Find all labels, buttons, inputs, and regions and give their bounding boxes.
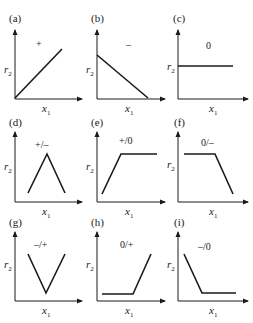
y-axis-label: r2 — [167, 258, 175, 273]
y-axis-label: r2 — [4, 63, 12, 78]
y-axis-label: r2 — [167, 158, 175, 173]
y-axis-label: r2 — [167, 60, 175, 75]
curve-valley — [28, 254, 65, 293]
sign-label: –/0 — [197, 241, 211, 252]
x-axis-label: x1 — [208, 304, 218, 319]
sign-label: –/+ — [33, 239, 48, 250]
panel-label: (i) — [174, 216, 185, 229]
sign-label: + — [36, 38, 42, 49]
sign-label: 0/– — [201, 137, 215, 148]
panel-h: (h) 0/+ r2 x1 — [86, 216, 165, 319]
y-axis-label: r2 — [4, 258, 12, 273]
curve-increasing — [15, 49, 62, 98]
x-axis-label: x1 — [41, 205, 51, 220]
panel-label: (h) — [91, 216, 104, 229]
sign-label: – — [125, 39, 132, 50]
panel-d: (d) +/– r2 x1 — [4, 116, 82, 220]
x-axis-label: x1 — [208, 205, 218, 220]
x-axis-label: x1 — [124, 102, 134, 117]
sign-label: +/0 — [119, 135, 132, 146]
panel-label: (b) — [91, 12, 104, 25]
curve-plateau-increase — [102, 254, 151, 294]
y-axis-label: r2 — [86, 63, 94, 78]
sign-label: +/– — [35, 139, 49, 150]
panel-label: (f) — [174, 116, 185, 129]
panel-label: (c) — [173, 12, 186, 25]
panel-label: (d) — [9, 116, 22, 129]
panel-label: (g) — [9, 216, 22, 229]
x-axis-label: x1 — [41, 304, 51, 319]
panel-i: (i) –/0 r2 x1 — [167, 216, 248, 319]
panel-f: (f) 0/– r2 x1 — [167, 116, 248, 220]
panel-label: (e) — [91, 116, 104, 129]
panel-g: (g) –/+ r2 x1 — [4, 216, 82, 319]
x-axis-label: x1 — [124, 205, 134, 220]
curve-increase-plateau — [102, 154, 157, 194]
x-axis-label: x1 — [41, 102, 51, 117]
curve-decrease-plateau — [184, 254, 236, 293]
curve-decreasing — [97, 55, 148, 98]
relationship-diagram-grid: (a) + r2 x1 (b) – r2 x1 (c) 0 r2 x1 (d) … — [0, 0, 253, 323]
panel-label: (a) — [9, 12, 22, 25]
panel-c: (c) 0 r2 x1 — [167, 12, 248, 117]
x-axis-label: x1 — [208, 102, 218, 117]
sign-label: 0/+ — [120, 239, 134, 250]
panel-a: (a) + r2 x1 — [4, 12, 82, 117]
curve-peak — [28, 154, 65, 193]
y-axis-label: r2 — [4, 160, 12, 175]
y-axis-label: r2 — [86, 258, 94, 273]
panel-b: (b) – r2 x1 — [86, 12, 165, 117]
x-axis-label: x1 — [124, 304, 134, 319]
sign-label: 0 — [206, 40, 211, 51]
y-axis-label: r2 — [86, 160, 94, 175]
panel-e: (e) +/0 r2 x1 — [86, 116, 165, 220]
curve-plateau-decrease — [184, 154, 233, 194]
